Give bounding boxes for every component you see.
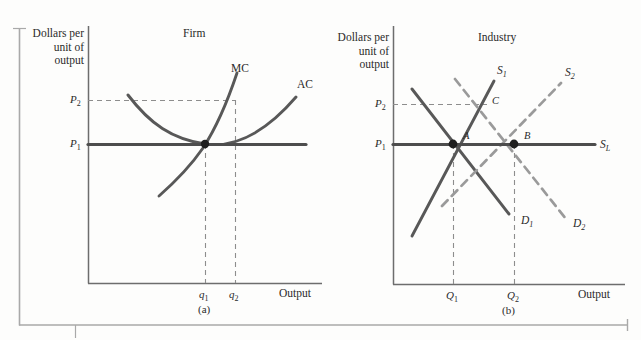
q2-subscript: 2 — [235, 294, 239, 303]
panel-a-y-axis-title: Dollars per unit of output — [24, 27, 84, 68]
panel-a-p1-subscript: 1 — [77, 143, 81, 152]
demand-curve-d1-label: D1 — [521, 214, 533, 230]
equilibrium-point-b — [510, 140, 519, 149]
q1-tick-label: q1 — [199, 288, 209, 304]
long-run-supply-sl-label: SL — [600, 138, 610, 154]
Q1-symbol: Q — [446, 289, 454, 301]
panel-a-caption: (a) — [198, 303, 210, 316]
panel-b-x-axis-title: Output — [578, 288, 610, 302]
panel-b-y-axis-title: Dollars per unit of output — [329, 31, 389, 72]
panel-b-p2-label: P2 — [375, 97, 386, 113]
panel-a-x-axis-title: Output — [279, 287, 311, 301]
Q1-subscript: 1 — [454, 295, 458, 304]
panel-a-y-axis-title-line1: Dollars per — [24, 27, 84, 41]
point-c-label: C — [492, 95, 499, 107]
economics-figure — [0, 0, 641, 340]
s1-subscript: 1 — [503, 70, 507, 79]
panel-b-y-axis-title-line3: output — [329, 58, 389, 72]
panel-a-p1-symbol: P — [70, 137, 77, 149]
average-cost-curve — [128, 95, 296, 145]
panel-b-title: Industry — [478, 31, 516, 45]
panel-a-p1-label: P1 — [70, 137, 81, 153]
s2-subscript: 2 — [571, 72, 575, 81]
q2-tick-label: q2 — [229, 288, 239, 304]
panel-b-p1-symbol: P — [375, 137, 382, 149]
equilibrium-point-a — [449, 140, 458, 149]
Q2-symbol: Q — [507, 289, 515, 301]
panel-b-y-axis-title-line1: Dollars per — [329, 31, 389, 45]
average-cost-label: AC — [297, 78, 313, 92]
supply-curve-s2-label: S2 — [565, 66, 575, 82]
supply-curve-s1-label: S1 — [497, 64, 507, 80]
d1-subscript: 1 — [529, 220, 533, 229]
figure-page: Dollars per unit of output Firm P2 P1 MC… — [0, 0, 641, 340]
marginal-cost-label: MC — [231, 62, 249, 76]
panel-b-p2-symbol: P — [375, 97, 382, 109]
panel-a-p2-label: P2 — [70, 93, 81, 109]
panel-a-p2-symbol: P — [70, 93, 77, 105]
Q2-subscript: 2 — [515, 295, 519, 304]
panel-b-axes — [393, 26, 625, 285]
panel-b-y-axis-title-line2: unit of — [329, 45, 389, 59]
q1-subscript: 1 — [205, 294, 209, 303]
panel-a-title: Firm — [183, 27, 205, 41]
demand-curve-d2-label: D2 — [573, 217, 585, 233]
panel-b-p1-subscript: 1 — [382, 143, 386, 152]
panel-a-y-axis-title-line3: output — [24, 54, 84, 68]
panel-a-p2-subscript: 2 — [77, 99, 81, 108]
panel-b-caption: (b) — [502, 304, 515, 317]
panel-b-p1-label: P1 — [375, 137, 386, 153]
firm-equilibrium-point — [201, 140, 209, 148]
panel-a-y-axis-title-line2: unit of — [24, 41, 84, 55]
panel-b-p2-subscript: 2 — [382, 103, 386, 112]
point-a-label: A — [463, 130, 469, 142]
d2-subscript: 2 — [581, 223, 585, 232]
demand-curve-d2 — [455, 79, 566, 219]
Q1-tick-label: Q1 — [446, 289, 458, 305]
Q2-tick-label: Q2 — [507, 289, 519, 305]
sl-subscript: L — [606, 144, 610, 153]
point-b-label: B — [524, 130, 530, 142]
